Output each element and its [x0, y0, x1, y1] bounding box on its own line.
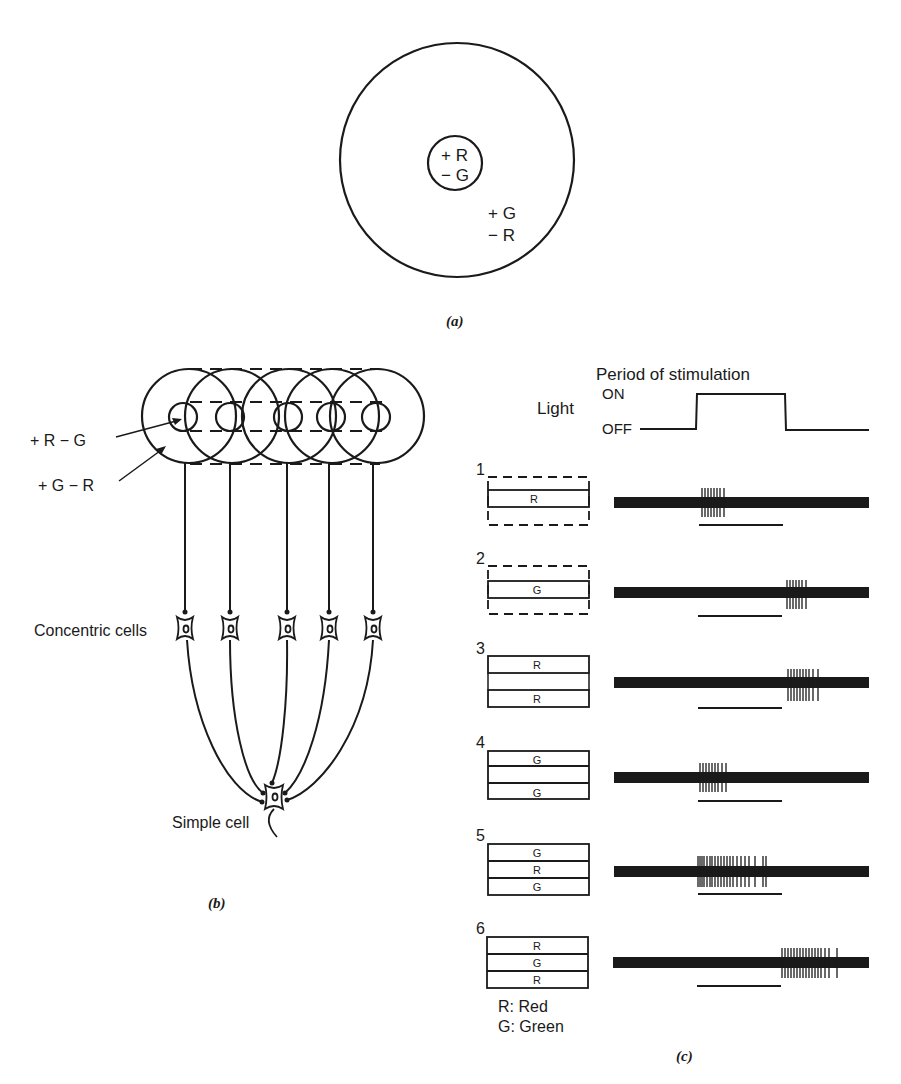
- trial-4: 4 G G: [476, 734, 869, 801]
- spike-train: [614, 677, 869, 688]
- spike-train: [613, 957, 869, 968]
- neuron-icon: [321, 617, 337, 639]
- spike-train: [614, 497, 869, 508]
- converging-axons: [187, 640, 373, 802]
- panel-b: + R − G + G − R Concentric cells: [30, 369, 424, 912]
- surround-label-plus: + G: [488, 204, 516, 223]
- on-label: ON: [602, 385, 625, 402]
- simple-cell-icon: [265, 785, 283, 837]
- neuron-icon: [365, 617, 381, 639]
- trial-1: 1 R: [476, 461, 869, 525]
- trial-number: 6: [476, 920, 485, 937]
- period-of-stimulation-label: Period of stimulation: [596, 365, 750, 384]
- trial-number: 2: [476, 550, 485, 567]
- off-label: OFF: [602, 420, 632, 437]
- panel-c: Period of stimulation Light ON OFF 1 R 2…: [476, 365, 869, 1065]
- label-surround-response: + G − R: [38, 477, 94, 494]
- bar-label: R: [533, 864, 541, 876]
- trial-5: 5 G R G: [476, 827, 869, 895]
- neuron-icon: [222, 617, 238, 639]
- center-label-plus: + R: [441, 146, 468, 165]
- neuron-icon: [279, 617, 295, 639]
- bar-label: R: [533, 693, 541, 705]
- stimulus-bar: [488, 490, 589, 507]
- arrow-surround: [119, 448, 164, 481]
- label-center-response: + R − G: [30, 432, 86, 449]
- trial-3: 3 R R: [476, 640, 869, 708]
- dashed-outline: [488, 477, 589, 525]
- bar-label: R: [533, 659, 541, 671]
- surround-label-minus: − R: [488, 226, 515, 245]
- spike-train: [614, 772, 869, 783]
- light-trace: [640, 394, 869, 430]
- panel-b-caption: (b): [208, 895, 226, 912]
- legend-green: G: Green: [498, 1018, 564, 1035]
- bar-label: R: [530, 493, 538, 505]
- panel-c-caption: (c): [676, 1048, 693, 1065]
- panel-a: + R − G + G − R (a): [340, 43, 574, 330]
- axons: [185, 463, 373, 612]
- neuron-icon: [177, 617, 193, 639]
- bar-label: G: [533, 847, 542, 859]
- trial-number: 5: [476, 827, 485, 844]
- bar-label: G: [533, 881, 542, 893]
- trial-number: 1: [476, 461, 485, 478]
- dashed-envelope: [190, 369, 385, 464]
- label-concentric-cells: Concentric cells: [34, 622, 147, 639]
- figure-canvas: + R − G + G − R (a) + R − G: [0, 0, 901, 1084]
- concentric-cells: [177, 617, 381, 639]
- legend-red: R: Red: [498, 998, 548, 1015]
- arrow-center: [116, 420, 180, 437]
- light-label: Light: [537, 399, 574, 418]
- bar-label: G: [533, 584, 542, 596]
- bar-label: G: [533, 957, 542, 969]
- spike-train: [614, 587, 869, 598]
- bar-label: R: [533, 974, 541, 986]
- panel-a-caption: (a): [446, 313, 464, 330]
- synapse-terminals: [183, 610, 376, 615]
- center-label-minus: − G: [441, 166, 469, 185]
- label-simple-cell: Simple cell: [172, 814, 249, 831]
- trial-number: 3: [476, 640, 485, 657]
- trial-2: 2 G: [476, 550, 869, 616]
- bar-label: R: [533, 940, 541, 952]
- bar-label: G: [533, 787, 542, 799]
- trial-number: 4: [476, 734, 485, 751]
- receptive-fields: [142, 369, 424, 463]
- bar-label: G: [533, 754, 542, 766]
- arrowhead-center-icon: [172, 418, 182, 425]
- trial-6: 6 R G R: [476, 920, 869, 988]
